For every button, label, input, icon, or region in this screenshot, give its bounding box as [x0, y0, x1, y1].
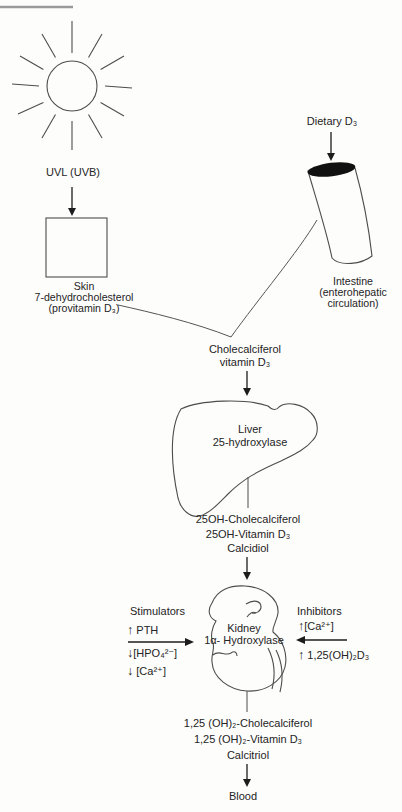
stimulator-ca: ↓ [Ca²⁺] [127, 665, 166, 677]
skin-label-line3: (provitamin D₃) [35, 303, 134, 314]
stimulator-hpo4-text: [HPO₄²⁻] [133, 647, 177, 659]
liver-label-line1: Liver [213, 423, 288, 436]
sun-rays [12, 21, 132, 150]
sun-icon [12, 21, 132, 150]
intestine-label-line3: circulation) [319, 298, 387, 309]
calcidiol-line2: 25OH-Vitamin D₃ [196, 527, 301, 542]
stimulator-pth-text: PTH [133, 624, 158, 636]
blood-label: Blood [229, 790, 257, 802]
dietary-d3-label: Dietary D₃ [307, 115, 357, 127]
kidney-ureter-line-2 [276, 650, 282, 692]
stimulator-hpo4: ↓[HPO₄²⁻] [127, 647, 177, 659]
stimulators-title: Stimulators [130, 605, 185, 617]
calcitriol-to-blood-arrow [243, 764, 251, 787]
skin-to-cholecalciferol-curve [118, 305, 231, 337]
cholecalciferol-line2: vitamin D₃ [209, 356, 281, 369]
kidney-label-line1: Kidney [204, 622, 284, 634]
inhibitors-arrow [296, 636, 347, 644]
intestine-label-line2: (enterohepatic [319, 287, 387, 298]
inhibitor-125ohd3: ↑ 1,25(OH)₂D₃ [298, 649, 369, 661]
skin-label-line2: 7-dehydrocholesterol [35, 292, 134, 303]
calcidiol-line1: 25OH-Cholecalciferol [196, 512, 301, 527]
intestine-tube [308, 168, 372, 264]
calcitriol-label: 1,25 (OH)₂-Cholecalciferol 1,25 (OH)₂-Vi… [184, 715, 312, 763]
kidney-inner-detail-tick [247, 612, 256, 617]
calcidiol-to-kidney-arrow [243, 557, 251, 580]
intestine-to-cholecalciferol-curve [231, 220, 317, 337]
cholecalciferol-label: Cholecalciferol vitamin D₃ [209, 343, 281, 369]
intestine-icon [307, 160, 372, 264]
kidney-label: Kidney 1α- Hydroxylase [204, 622, 284, 647]
liver-icon [172, 401, 317, 516]
uvl-to-skin-arrow [68, 187, 76, 216]
kidney-waist-detail [213, 652, 237, 656]
stimulators-arrow [128, 638, 194, 646]
vitamin-d-metabolism-diagram: UVL (UVB) Skin 7-dehydrocholesterol (pro… [0, 0, 402, 812]
stimulator-ca-text: [Ca²⁺] [133, 665, 166, 677]
stimulator-pth: ↑ PTH [127, 624, 158, 636]
sun-core [47, 61, 97, 111]
calcidiol-label: 25OH-Cholecalciferol 25OH-Vitamin D₃ Cal… [196, 512, 301, 556]
skin-box [46, 218, 107, 277]
inhibitor-125ohd3-text: 1,25(OH)₂D₃ [304, 649, 369, 661]
liver-label-line2: 25-hydroxylase [213, 436, 288, 449]
uvl-label: UVL (UVB) [46, 166, 100, 178]
skin-label: Skin 7-dehydrocholesterol (provitamin D₃… [35, 281, 134, 313]
kidney-inner-detail-top [246, 601, 261, 613]
calcidiol-line3: Calcidiol [196, 541, 301, 556]
calcitriol-line2: 1,25 (OH)₂-Vitamin D₃ [184, 731, 312, 747]
dietary-to-intestine-arrow [327, 132, 335, 161]
inhibitor-ca: ↑[Ca²⁺] [298, 620, 334, 632]
kidney-ureter-line-1 [268, 648, 274, 689]
cholecalciferol-to-liver-arrow [243, 371, 251, 396]
liver-label: Liver 25-hydroxylase [213, 423, 288, 449]
kidney-label-line2: 1α- Hydroxylase [204, 634, 284, 646]
intestine-label: Intestine (enterohepatic circulation) [319, 276, 387, 308]
cholecalciferol-line1: Cholecalciferol [209, 343, 281, 356]
inhibitor-ca-text: [Ca²⁺] [304, 620, 334, 632]
calcitriol-line1: 1,25 (OH)₂-Cholecalciferol [184, 715, 312, 731]
inhibitors-title: Inhibitors [297, 605, 342, 617]
calcitriol-line3: Calcitriol [184, 747, 312, 763]
